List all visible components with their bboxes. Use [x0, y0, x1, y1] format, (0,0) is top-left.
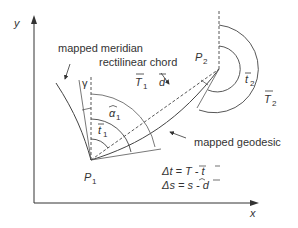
- p2-tick: [201, 80, 208, 85]
- alpha1-label: α 1: [109, 106, 121, 123]
- mapped-meridian-curve: [56, 83, 91, 160]
- svg-text:P: P: [195, 51, 203, 63]
- y-axis-arrow-icon: [31, 15, 37, 24]
- svg-text:d: d: [159, 76, 166, 88]
- svg-text:T: T: [264, 93, 272, 105]
- geodesic-diagram: y x mapped meridian rectilinear chord ma…: [0, 0, 298, 228]
- rectilinear-chord-label: rectilinear chord: [99, 56, 177, 68]
- t1-arc: [91, 139, 108, 148]
- T1-label: T 1: [135, 74, 148, 91]
- svg-text:T: T: [135, 76, 143, 88]
- equation-delta-t: Δt = T - t: [161, 165, 205, 177]
- p2-label: P 2: [195, 51, 208, 66]
- y-axis-label: y: [13, 17, 21, 29]
- svg-text:1: 1: [116, 113, 121, 122]
- x-axis: [34, 200, 259, 206]
- p1-label: P 1: [84, 171, 97, 186]
- y-axis: [31, 15, 37, 203]
- equation-delta-s: Δs = s - d: [161, 179, 210, 191]
- T2-label: T 2: [264, 91, 277, 108]
- d-label: d: [159, 74, 166, 88]
- gamma-label: γ: [82, 77, 88, 89]
- t2-label: t 2: [245, 73, 255, 88]
- geodesic-tangent-p1: [91, 149, 161, 160]
- mapped-geodesic-label: mapped geodesic: [194, 136, 281, 148]
- svg-text:t: t: [245, 73, 249, 85]
- svg-text:2: 2: [272, 99, 277, 108]
- geodesic-tangent-p2: [197, 69, 219, 108]
- mapped-meridian-label: mapped meridian: [58, 42, 143, 54]
- svg-text:t: t: [98, 124, 102, 136]
- svg-text:2: 2: [203, 57, 208, 66]
- svg-text:1: 1: [92, 177, 97, 186]
- T2-arc: [199, 25, 258, 113]
- t1-label: t 1: [98, 124, 108, 139]
- svg-text:1: 1: [143, 82, 148, 91]
- meridian-tangent-line: [79, 80, 91, 160]
- x-axis-label: x: [249, 207, 256, 219]
- t2-arc: [208, 46, 240, 92]
- svg-text:α: α: [109, 107, 116, 119]
- geodesic-leader: [170, 132, 186, 138]
- meridian-leader: [65, 64, 70, 79]
- svg-text:2: 2: [250, 79, 255, 88]
- svg-text:1: 1: [103, 130, 108, 139]
- x-axis-arrow-icon: [250, 200, 259, 206]
- svg-text:P: P: [84, 171, 92, 183]
